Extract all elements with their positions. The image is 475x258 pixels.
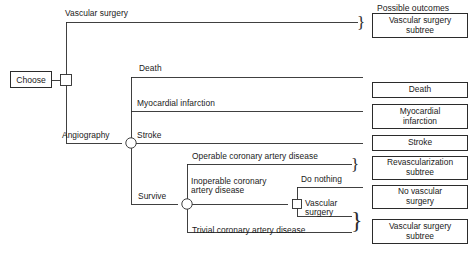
root-decision-node xyxy=(61,75,72,86)
outcome-line1: Death xyxy=(409,85,431,95)
brace-vascular-surgery-subtree-bottom: } xyxy=(351,208,363,232)
outcome-line2: subtree xyxy=(406,168,434,178)
branch-label-operable: Operable coronary artery disease xyxy=(192,152,318,162)
survive-chance-node xyxy=(182,199,192,209)
possible-outcomes-header: Possible outcomes xyxy=(377,3,449,13)
branch-label-trivial: Trivial coronary artery disease xyxy=(192,226,305,236)
branch-label-do-nothing: Do nothing xyxy=(301,175,342,185)
brace-vascular-surgery-subtree-top: } xyxy=(357,14,365,31)
outcome-box-vascular-surgery-subtree-bottom: Vascular surgery subtree xyxy=(372,219,468,244)
outcome-box-revascularization-subtree: Revascularization subtree xyxy=(372,156,468,180)
outcome-box-death: Death xyxy=(372,82,468,98)
branch-label-vascular-surgery: Vascular surgery xyxy=(65,9,128,19)
outcome-box-myocardial-infarction: Myocardial infarction xyxy=(372,104,468,129)
outcome-line2: surgery xyxy=(406,197,434,207)
outcome-box-stroke: Stroke xyxy=(372,135,468,151)
brace-revascularization-subtree: } xyxy=(351,156,359,173)
choose-box: Choose xyxy=(10,71,52,88)
outcome-line2: subtree xyxy=(406,232,434,242)
angiography-chance-node xyxy=(126,138,136,148)
outcome-box-vascular-surgery-subtree-top: Vascular surgery subtree xyxy=(372,13,468,38)
outcome-line2: subtree xyxy=(406,26,434,36)
branch-label-survive: Survive xyxy=(138,192,166,202)
branch-label-inoperable-line2: artery disease xyxy=(191,186,244,196)
branch-label-myocardial-infarction: Myocardial infarction xyxy=(137,99,215,109)
choose-label: Choose xyxy=(16,75,46,85)
outcome-line1: Stroke xyxy=(408,138,432,148)
decision-tree-figure: Choose Vascular surgery Angiography Deat… xyxy=(0,0,475,258)
branch-label-stroke: Stroke xyxy=(137,131,162,141)
branch-label-vascular-surgery-sub-line2: surgery xyxy=(305,208,333,218)
outcome-box-no-vascular-surgery: No vascular surgery xyxy=(372,185,468,209)
outcome-line2: infarction xyxy=(403,117,437,127)
branch-label-angiography: Angiography xyxy=(62,131,110,141)
branch-label-death: Death xyxy=(139,64,162,74)
inoperable-decision-node xyxy=(293,200,302,209)
